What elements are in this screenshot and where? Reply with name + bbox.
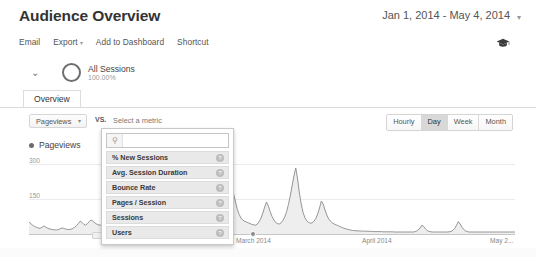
x-axis-tick-may: May 2...: [490, 237, 513, 244]
segment-collapse-toggle[interactable]: ⌄: [29, 67, 40, 78]
metric-option-label: Bounce Rate: [107, 183, 155, 192]
metric-option-label: Users: [107, 228, 132, 237]
timeline-chart-panel: Pageviews 300 150 March 2014 April 2014 …: [0, 134, 536, 244]
tab-strip: Overview: [0, 90, 536, 108]
granularity-hourly[interactable]: Hourly: [387, 115, 421, 130]
segment-name[interactable]: All Sessions: [88, 64, 135, 74]
horizontal-scrollbar-track[interactable]: [0, 248, 536, 257]
segment-percent: 100.00%: [88, 74, 116, 81]
chevron-down-icon[interactable]: ▾: [517, 13, 521, 22]
graduation-cap-icon[interactable]: [496, 38, 510, 48]
metric-option-label: Avg. Session Duration: [107, 168, 187, 177]
tab-overview[interactable]: Overview: [23, 90, 81, 107]
metric-search-box[interactable]: ⚲: [106, 133, 229, 148]
chevron-down-icon: ▾: [80, 40, 83, 46]
metric-option-list: % New Sessions?Avg. Session Duration?Bou…: [102, 151, 233, 239]
granularity-day[interactable]: Day: [422, 115, 448, 130]
shortcut-label: Shortcut: [177, 37, 209, 47]
add-to-dashboard-button[interactable]: Add to Dashboard: [96, 37, 164, 47]
metric-option[interactable]: % New Sessions?: [106, 151, 229, 164]
help-icon[interactable]: ?: [216, 229, 224, 237]
metric-option[interactable]: Pages / Session?: [106, 196, 229, 209]
segment-donut-icon: [62, 63, 81, 82]
shortcut-button[interactable]: Shortcut: [177, 37, 209, 47]
metric-search-input[interactable]: [123, 134, 228, 147]
granularity-month[interactable]: Month: [479, 115, 512, 130]
help-icon[interactable]: ?: [216, 184, 224, 192]
metric-option[interactable]: Users?: [106, 226, 229, 239]
vs-label: VS.: [95, 116, 106, 123]
email-button[interactable]: Email: [19, 37, 40, 47]
metric-dropdown-panel: ⚲ % New Sessions?Avg. Session Duration?B…: [101, 128, 234, 245]
search-icon: ⚲: [107, 134, 123, 147]
metric-option-label: Pages / Session: [107, 198, 166, 207]
segment-bar: ⌄ All Sessions 100.00%: [0, 55, 536, 91]
email-label: Email: [19, 37, 40, 47]
add-to-dashboard-label: Add to Dashboard: [96, 37, 164, 47]
primary-metric-label: Pageviews: [36, 117, 71, 126]
x-axis-tick-march: March 2014: [236, 237, 271, 244]
page-title: Audience Overview: [19, 7, 160, 25]
granularity-button-group: Hourly Day Week Month: [386, 114, 513, 131]
chevron-down-icon: ▾: [78, 115, 81, 128]
secondary-metric-dropdown[interactable]: Select a metric: [113, 116, 162, 125]
metric-option[interactable]: Sessions?: [106, 211, 229, 224]
x-axis-tick-april: April 2014: [362, 237, 392, 244]
page-header: Audience Overview Jan 1, 2014 - May 4, 2…: [0, 0, 536, 31]
metric-option-label: Sessions: [107, 213, 143, 222]
export-label: Export: [53, 37, 78, 47]
help-icon[interactable]: ?: [216, 154, 224, 162]
granularity-week[interactable]: Week: [448, 115, 480, 130]
metric-option-label: % New Sessions: [107, 153, 168, 162]
help-icon[interactable]: ?: [216, 169, 224, 177]
metric-option[interactable]: Avg. Session Duration?: [106, 166, 229, 179]
primary-metric-dropdown[interactable]: Pageviews ▾: [29, 114, 87, 128]
metric-option[interactable]: Bounce Rate?: [106, 181, 229, 194]
help-icon[interactable]: ?: [216, 214, 224, 222]
export-button[interactable]: Export▾: [53, 37, 83, 47]
report-toolbar: Email Export▾ Add to Dashboard Shortcut: [0, 31, 536, 56]
help-icon[interactable]: ?: [216, 199, 224, 207]
date-range-selector[interactable]: Jan 1, 2014 - May 4, 2014: [382, 9, 510, 21]
toolbar-actions: Email Export▾ Add to Dashboard Shortcut: [19, 37, 209, 47]
